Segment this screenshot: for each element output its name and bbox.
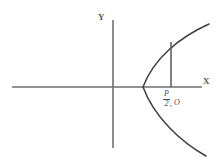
origin-label: O	[174, 99, 180, 109]
x-axis-label: X	[203, 77, 210, 86]
fraction-denominator: 2	[164, 100, 170, 108]
point-coordinate-annotation: P 2 , O	[163, 90, 180, 109]
figure-canvas: Y X P 2 , O	[0, 0, 222, 168]
annotation-comma: ,	[170, 100, 172, 109]
diagram-svg	[0, 0, 222, 168]
fraction-p-over-2: P 2	[163, 90, 170, 109]
y-axis-label: Y	[98, 13, 105, 22]
fraction-numerator: P	[163, 90, 170, 98]
